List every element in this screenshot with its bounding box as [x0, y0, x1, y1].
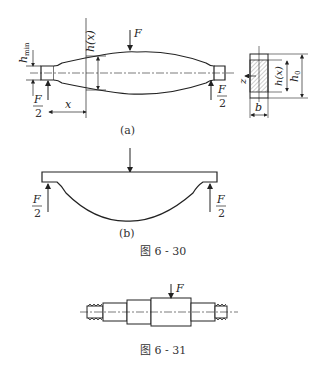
svg-text:F: F: [32, 193, 41, 206]
figure-6-30-caption: 图 6 - 30: [140, 245, 186, 258]
section-b-label: b: [255, 101, 262, 114]
half-force-right-label-b: F 2: [216, 193, 226, 220]
figure-6-31-caption: 图 6 - 31: [140, 344, 186, 357]
h-x-label: h(x): [84, 30, 97, 52]
force-label: F: [133, 27, 142, 40]
svg-text:2: 2: [219, 97, 226, 110]
svg-text:F: F: [216, 193, 225, 206]
part-b-label: (b): [119, 227, 135, 240]
shaft-force-label: F: [175, 282, 184, 295]
section-h-x-label: h(x): [273, 66, 284, 86]
svg-text:2: 2: [35, 107, 42, 120]
half-force-right-label: F 2: [217, 83, 227, 110]
z-axis-label: z: [237, 78, 248, 85]
svg-text:F: F: [33, 93, 42, 106]
diagram-canvas: F hmin h(x) F 2 x F 2: [0, 0, 327, 381]
x-label: x: [65, 98, 72, 111]
fig-6-30b-beam: [42, 172, 217, 221]
section-h0-label: h0: [288, 70, 302, 82]
part-a-label: (a): [120, 124, 135, 137]
svg-text:2: 2: [218, 207, 225, 220]
svg-text:F: F: [217, 83, 226, 96]
half-force-left-label-b: F 2: [32, 193, 42, 220]
h-min-label: hmin: [17, 42, 31, 63]
svg-text:2: 2: [34, 207, 41, 220]
half-force-left-label: F 2: [33, 93, 43, 120]
